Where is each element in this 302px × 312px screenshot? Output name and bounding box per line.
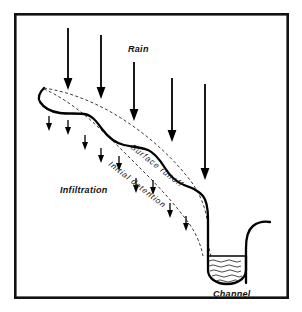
channel-right-bank — [246, 222, 270, 283]
diagram-canvas: Rain Surface runoff Initial detention In… — [0, 0, 302, 312]
channel-group — [208, 222, 270, 284]
infiltration-label: Infiltration — [60, 185, 108, 195]
rain-arrow-2 — [97, 35, 106, 99]
rain-arrow-5 — [201, 84, 210, 180]
infiltration-arrow-9 — [183, 216, 189, 231]
infiltration-arrow-8 — [167, 203, 173, 218]
rain-label: Rain — [128, 44, 149, 54]
rain-arrow-4 — [168, 78, 177, 142]
rain-arrow-1 — [64, 28, 73, 90]
channel-water-waves — [209, 260, 242, 282]
rain-arrow-3 — [130, 62, 139, 121]
runoff-diagram-figure: Rain Surface runoff Initial detention In… — [0, 0, 302, 312]
infiltration-arrow-3 — [82, 135, 88, 150]
infiltration-arrow-1 — [46, 116, 52, 131]
infiltration-arrow-2 — [65, 120, 71, 135]
infiltration-arrow-4 — [98, 148, 104, 163]
